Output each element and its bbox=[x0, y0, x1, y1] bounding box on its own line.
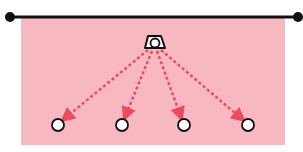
line-endpoint-right bbox=[293, 12, 303, 22]
drill-diagram bbox=[0, 0, 303, 152]
line-endpoint-left bbox=[5, 12, 15, 22]
player-marker-3 bbox=[178, 119, 190, 131]
cone-with-ball-icon bbox=[145, 36, 165, 48]
player-marker-1 bbox=[52, 119, 64, 131]
ball-icon bbox=[151, 39, 160, 48]
player-marker-4 bbox=[242, 119, 254, 131]
player-marker-2 bbox=[116, 119, 128, 131]
